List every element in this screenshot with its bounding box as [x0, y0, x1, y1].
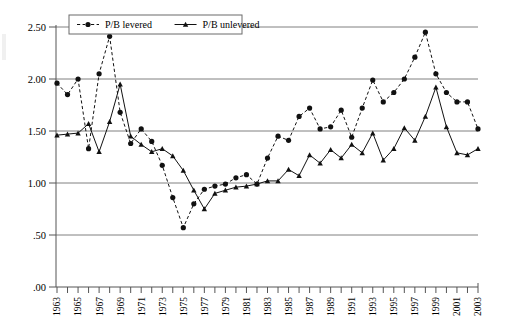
- series-marker-2: [307, 152, 312, 157]
- series-marker-2: [117, 82, 122, 87]
- series-line-2: [57, 84, 478, 209]
- series-marker-2: [286, 167, 291, 172]
- y-axis-label: .00: [33, 282, 46, 293]
- x-axis-label: 1997: [410, 297, 420, 316]
- series-marker-1: [54, 81, 59, 86]
- series-marker-2: [454, 150, 459, 155]
- x-axis-label: 1991: [347, 297, 357, 316]
- series-marker-1: [212, 184, 217, 189]
- series-marker-1: [454, 99, 459, 104]
- x-axis-label: 1987: [305, 297, 315, 316]
- series-marker-1: [223, 181, 228, 186]
- series-marker-1: [433, 71, 438, 76]
- series-marker-1: [86, 146, 91, 151]
- series-marker-1: [160, 163, 165, 168]
- series-marker-1: [128, 141, 133, 146]
- series-marker-2: [444, 124, 449, 129]
- series-marker-1: [75, 76, 80, 81]
- x-axis-label: 1999: [431, 297, 441, 316]
- series-marker-1: [412, 55, 417, 60]
- series-marker-2: [423, 114, 428, 119]
- series-marker-2: [96, 149, 101, 154]
- series-marker-2: [433, 85, 438, 90]
- series-marker-1: [318, 126, 323, 131]
- y-axis-label: 1.50: [28, 126, 46, 137]
- x-axis-label: 1979: [221, 297, 231, 316]
- series-marker-1: [191, 201, 196, 206]
- series-marker-1: [118, 110, 123, 115]
- series-marker-1: [328, 124, 333, 129]
- series-marker-2: [349, 142, 354, 147]
- series-marker-2: [296, 173, 301, 178]
- series-marker-1: [107, 34, 112, 39]
- series-marker-1: [307, 106, 312, 111]
- legend-label-2: P/B unlevered: [203, 19, 260, 30]
- series-marker-1: [286, 138, 291, 143]
- series-marker-1: [402, 76, 407, 81]
- series-marker-2: [128, 134, 133, 139]
- legend-marker-1: [85, 22, 90, 27]
- series-marker-1: [370, 77, 375, 82]
- series-marker-1: [202, 187, 207, 192]
- series-marker-2: [328, 147, 333, 152]
- x-axis-label: 1977: [200, 297, 210, 316]
- series-marker-1: [149, 139, 154, 144]
- x-axis-label: 1975: [179, 297, 189, 316]
- series-marker-1: [381, 99, 386, 104]
- series-marker-1: [391, 90, 396, 95]
- series-marker-1: [275, 134, 280, 139]
- x-axis-label: 2001: [452, 297, 462, 316]
- x-axis-label: 1983: [263, 297, 273, 316]
- legend-label-1: P/B levered: [105, 19, 152, 30]
- x-axis-label: 1963: [52, 297, 62, 316]
- series-marker-2: [475, 146, 480, 151]
- series-marker-2: [170, 153, 175, 158]
- y-axis-label: 2.00: [28, 74, 46, 85]
- series-marker-1: [360, 106, 365, 111]
- series-marker-1: [423, 30, 428, 35]
- x-axis-label: 1965: [73, 297, 83, 316]
- y-axis-label: 2.50: [28, 22, 46, 33]
- series-marker-1: [97, 71, 102, 76]
- series-marker-2: [160, 146, 165, 151]
- series-marker-1: [233, 175, 238, 180]
- series-marker-1: [339, 108, 344, 113]
- series-marker-2: [391, 146, 396, 151]
- series-marker-2: [402, 125, 407, 130]
- series-marker-2: [107, 119, 112, 124]
- x-axis-label: 2003: [473, 297, 483, 316]
- series-marker-2: [86, 121, 91, 126]
- series-marker-1: [181, 225, 186, 230]
- series-marker-1: [244, 172, 249, 177]
- series-marker-1: [465, 99, 470, 104]
- x-axis-label: 1989: [326, 297, 336, 316]
- pb-ratio-line-chart: 2.502.001.501.00.50.00196319651967196919…: [0, 0, 505, 331]
- x-axis-label: 1995: [389, 297, 399, 316]
- x-axis-label: 1971: [137, 297, 147, 316]
- chart-container: 2.502.001.501.00.50.00196319651967196919…: [0, 0, 505, 331]
- series-marker-1: [296, 114, 301, 119]
- left-edge-artifact: [2, 34, 6, 60]
- y-axis-label: 1.00: [28, 178, 46, 189]
- x-axis-label: 1981: [242, 297, 252, 316]
- series-marker-1: [170, 195, 175, 200]
- x-axis-label: 1973: [158, 297, 168, 316]
- y-axis-label: .50: [33, 230, 46, 241]
- series-marker-2: [191, 188, 196, 193]
- x-axis-label: 1967: [95, 297, 105, 316]
- series-line-1: [57, 32, 478, 228]
- series-marker-1: [349, 135, 354, 140]
- series-marker-1: [475, 126, 480, 131]
- series-marker-1: [265, 155, 270, 160]
- series-marker-1: [444, 90, 449, 95]
- x-axis-label: 1985: [284, 297, 294, 316]
- series-marker-1: [65, 92, 70, 97]
- series-marker-1: [139, 126, 144, 131]
- x-axis-label: 1993: [368, 297, 378, 316]
- x-axis-label: 1969: [116, 297, 126, 316]
